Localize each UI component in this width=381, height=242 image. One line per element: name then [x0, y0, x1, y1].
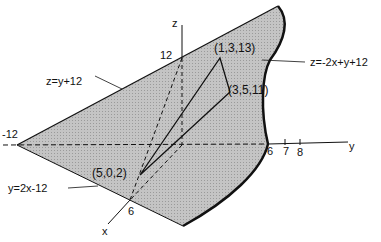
surface-label: z=-2x+y+12 [310, 57, 368, 68]
y-tick-neg12: -12 [2, 129, 18, 140]
diagram-graphic [0, 0, 381, 242]
y-tick-6: 6 [267, 146, 273, 157]
y-axis-label: y [349, 141, 355, 152]
diagram: z 12 z=y+12 (1,3,13) z=-2x+y+12 (3,5,11)… [0, 0, 381, 242]
y-axis [268, 142, 348, 144]
y-tick-7: 7 [283, 146, 289, 157]
x-axis-label: x [102, 226, 108, 237]
point-3-5-11: (3,5,11) [228, 84, 268, 96]
point-1-3-13: (1,3,13) [214, 42, 255, 54]
x-axis [108, 200, 130, 224]
z-tick-12: 12 [160, 50, 172, 61]
y-tick-8: 8 [297, 147, 303, 158]
x-tick-6: 6 [128, 206, 134, 217]
plane-region [17, 6, 285, 226]
z-axis-label: z [172, 18, 178, 29]
point-5-0-2: (5,0,2) [92, 167, 127, 179]
base-edge-label: y=2x-12 [8, 183, 47, 194]
top-edge-label: z=y+12 [46, 76, 82, 87]
